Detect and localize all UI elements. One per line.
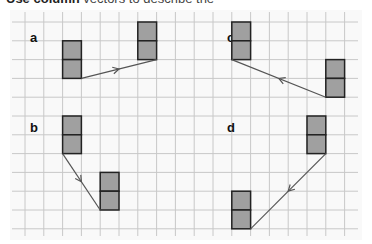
start-shape-cell [307, 116, 326, 135]
end-shape-cell [232, 41, 251, 60]
start-shape-cell [307, 135, 326, 154]
start-shape-cell [63, 116, 82, 135]
end-shape-cell [100, 191, 119, 210]
end-shape-cell [232, 210, 251, 229]
end-shape-cell [232, 22, 251, 41]
panel-label: d [227, 120, 235, 135]
panel-label: a [30, 30, 38, 45]
end-shape-cell [232, 191, 251, 210]
end-shape-cell [100, 172, 119, 191]
start-shape-cell [63, 135, 82, 154]
start-shape-cell [63, 41, 82, 60]
start-shape-cell [326, 60, 345, 79]
panels: abcd [30, 22, 345, 229]
start-shape-cell [63, 60, 82, 79]
arrowhead-icon [75, 175, 81, 182]
end-shape-cell [138, 41, 157, 60]
end-shape-cell [138, 22, 157, 41]
vector-diagram: abcd [0, 0, 372, 244]
panel-label: b [30, 120, 38, 135]
start-shape-cell [326, 78, 345, 97]
